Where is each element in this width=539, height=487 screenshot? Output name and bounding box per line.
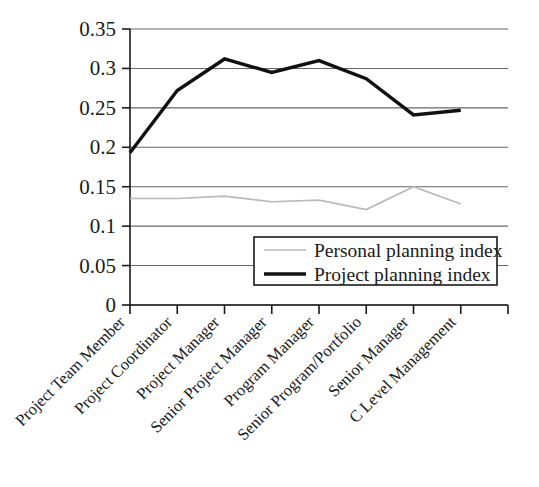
- y-axis-tick-label: 0.3: [90, 56, 116, 80]
- y-axis-tick-label: 0.2: [90, 135, 116, 159]
- line-chart: 00.050.10.150.20.250.30.35 Personal plan…: [0, 0, 539, 487]
- y-axis-tick-label: 0.1: [90, 214, 116, 238]
- y-axis-tick-label: 0.15: [79, 175, 116, 199]
- y-axis-tick-label: 0.05: [79, 254, 116, 278]
- y-axis-tick-label: 0.35: [79, 17, 116, 41]
- chart-canvas: 00.050.10.150.20.250.30.35 Personal plan…: [0, 0, 539, 487]
- legend: Personal planning indexProject planning …: [254, 237, 503, 285]
- legend-label: Personal planning index: [314, 240, 503, 261]
- legend-label: Project planning index: [314, 264, 491, 285]
- y-axis-tick-label: 0.25: [79, 96, 116, 120]
